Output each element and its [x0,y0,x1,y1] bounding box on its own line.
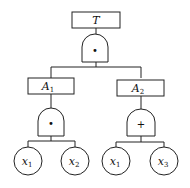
basic-event-x1-left: x1 [14,147,42,175]
basic-event-x3: x3 [150,147,178,175]
fault-tree-diagram: T • A1 • x1 x2 A2 + x1 [0,0,190,188]
basic-event-x1-right: x1 [102,147,130,175]
svg-text:•: • [92,45,98,56]
a1-and-gate: • [38,108,64,136]
top-event-box: T [72,12,120,28]
top-and-gate: • [82,34,108,62]
event-box-a2: A2 [117,80,164,96]
svg-text:•: • [48,118,54,129]
event-box-a1: A1 [28,78,74,94]
svg-text:+: + [137,119,145,130]
a2-or-gate: + [127,109,155,136]
basic-event-x2: x2 [61,147,89,175]
